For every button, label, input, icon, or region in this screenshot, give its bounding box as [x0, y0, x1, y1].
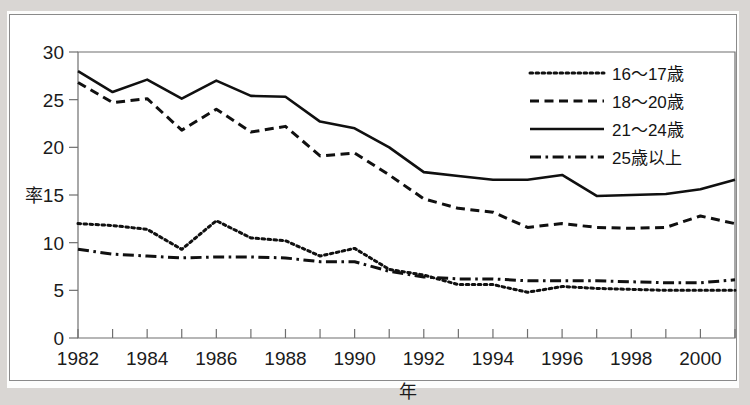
y-tick-label-25: 25 — [43, 90, 64, 111]
x-tick-label-2000: 2000 — [679, 348, 721, 369]
x-tick-label-1988: 1988 — [264, 348, 306, 369]
y-axis: 051015202530 — [43, 42, 78, 349]
x-tick-label-1982: 1982 — [57, 348, 99, 369]
x-axis: 1982198419861988199019921994199619982000 — [57, 329, 735, 369]
x-tick-label-1984: 1984 — [126, 348, 169, 369]
legend-label-2: 21〜24歳 — [612, 121, 684, 140]
y-tick-label-10: 10 — [43, 233, 64, 254]
x-tick-label-1996: 1996 — [541, 348, 583, 369]
line-chart: 051015202530 198219841986198819901992199… — [0, 0, 750, 405]
y-tick-label-15: 15 — [43, 185, 64, 206]
x-tick-label-1990: 1990 — [333, 348, 375, 369]
y-tick-label-30: 30 — [43, 42, 64, 63]
figure-root: 051015202530 198219841986198819901992199… — [0, 0, 750, 405]
series-line-3 — [78, 249, 735, 282]
x-tick-label-1998: 1998 — [610, 348, 652, 369]
y-tick-label-0: 0 — [53, 328, 64, 349]
legend-label-0: 16〜17歳 — [612, 65, 684, 84]
x-tick-label-1992: 1992 — [403, 348, 445, 369]
chart-legend: 16〜17歳18〜20歳21〜24歳25歳以上 — [530, 65, 684, 168]
x-tick-label-1986: 1986 — [195, 348, 237, 369]
y-tick-label-5: 5 — [53, 280, 64, 301]
y-axis-title: 率 — [25, 186, 43, 206]
x-tick-label-1994: 1994 — [472, 348, 515, 369]
y-tick-label-20: 20 — [43, 137, 64, 158]
legend-label-3: 25歳以上 — [612, 149, 682, 168]
legend-label-1: 18〜20歳 — [612, 93, 684, 112]
x-axis-title: 年 — [399, 382, 417, 402]
